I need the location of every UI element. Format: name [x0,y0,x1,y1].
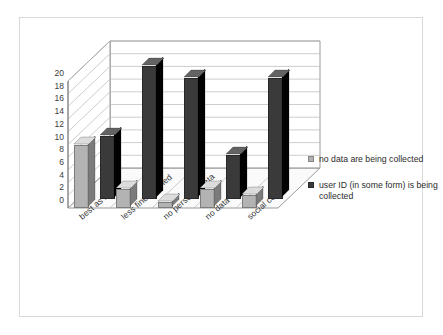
bar-top-face [100,128,124,137]
y-tick-label-16: 16 [55,94,64,102]
y-tick-label-2: 2 [59,183,64,191]
gridline-left-14 [68,79,110,119]
bar-front-face [100,136,115,200]
gridline-left-20 [68,41,110,81]
bar-front-face [268,78,283,199]
legend-item-user-id-being-collected: user ID (in some form) is being collecte… [308,180,440,203]
chart-legend: no data are being collected user ID (in … [308,154,440,217]
bar-top-face [200,181,224,190]
bar-front-face [242,195,257,208]
legend-swatch-light [308,156,314,162]
bar-top-face [268,70,292,79]
bar-side-face [198,69,207,199]
y-tick-label-12: 12 [55,120,64,128]
legend-label-dark: user ID (in some form) is being collecte… [319,180,440,203]
y-tick-label-20: 20 [55,69,64,77]
bar-side-face [156,57,165,199]
plot-area: 02468101214161820 [68,81,278,208]
y-tick-label-0: 0 [59,196,64,204]
bar-front-face [184,78,199,199]
bar-top-face [74,137,98,146]
gridline-left-12 [68,92,110,132]
bar-front-face [142,66,157,199]
y-tick-label-6: 6 [59,158,64,166]
bar-top-face [242,187,266,196]
y-tick-label-14: 14 [55,107,64,115]
gridline-left-16 [68,66,110,106]
bar-top-face [158,194,182,203]
legend-label-light: no data are being collected [319,154,440,166]
gridline-left-18 [68,54,110,94]
bar-side-face [88,136,97,209]
bar-front-face [200,189,215,208]
y-tick-label-4: 4 [59,171,64,179]
y-tick-label-10: 10 [55,133,64,141]
bar-top-face [116,181,140,190]
bar-top-face [184,70,208,79]
legend-swatch-dark [308,182,314,188]
y-tick-label-8: 8 [59,145,64,153]
chart-frame: 02468101214161820 best as isless fine-gr… [19,17,423,317]
bar-front-face [116,189,131,208]
bar-front-face [74,145,89,209]
bar-front-face [226,155,241,199]
bar-top-face [142,58,166,67]
y-tick-label-18: 18 [55,82,64,90]
legend-item-no-data-are-being-collected: no data are being collected [308,154,440,166]
bar-side-face [282,69,291,199]
bar-top-face [226,147,250,156]
chart-screenshot: 02468101214161820 best as isless fine-gr… [0,0,443,335]
